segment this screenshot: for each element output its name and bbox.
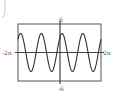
y-max-label: 6 (59, 17, 63, 23)
sinusoid-plot (0, 0, 115, 96)
corner-bracket-mark (2, 0, 5, 17)
x-max-label: 2π (103, 50, 111, 56)
x-min-label: -2π (2, 50, 12, 56)
y-min-label: -6 (58, 86, 64, 92)
